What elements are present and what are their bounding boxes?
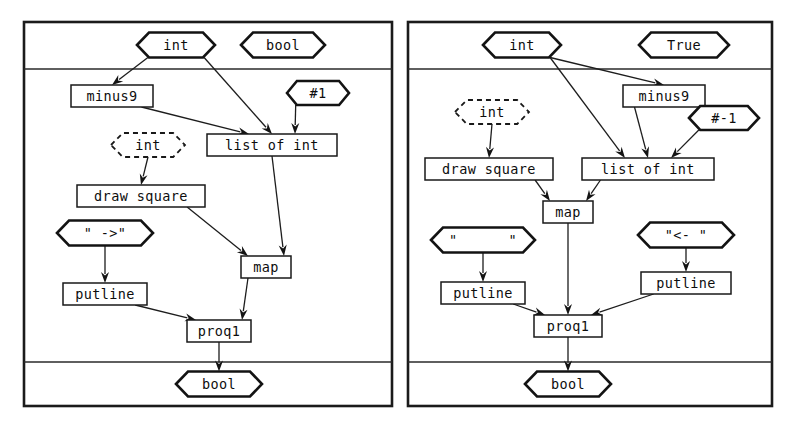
panel-border (24, 22, 392, 406)
graph-node[interactable]: "<- " (638, 223, 734, 248)
graph-node-label: True (667, 37, 701, 53)
graph-node-label: int (509, 37, 535, 53)
graph-node[interactable]: draw square (77, 185, 205, 207)
left-dataflow-panel: intboolminus9#1intlist of intdraw square… (24, 22, 392, 406)
graph-node[interactable]: list of int (207, 134, 337, 156)
graph-node[interactable]: map (241, 256, 291, 278)
graph-node-label: int (163, 37, 189, 53)
graph-node-label: bool (202, 376, 236, 392)
graph-node[interactable]: putline (641, 272, 731, 294)
graph-node[interactable]: map (543, 201, 593, 223)
graph-node-label: list of int (601, 161, 695, 177)
graph-node-label: int (479, 104, 505, 120)
graph-node[interactable]: draw square (425, 158, 553, 180)
graph-node-label: proq1 (547, 318, 590, 334)
graph-node-label: bool (266, 37, 300, 53)
graph-node[interactable]: int (455, 100, 529, 124)
graph-node-label: putline (75, 286, 135, 302)
graph-node-label: proq1 (198, 323, 241, 339)
graph-node[interactable]: #1 (287, 81, 349, 105)
graph-node[interactable]: " ->" (57, 221, 153, 246)
graph-node[interactable]: int (483, 33, 561, 58)
graph-node[interactable]: bool (176, 372, 262, 397)
graph-node[interactable]: bool (241, 33, 325, 58)
graph-node-label: map (253, 259, 279, 275)
graph-node[interactable]: " " (431, 228, 535, 253)
graph-node-label: #-1 (711, 110, 737, 126)
graph-node-label: " ->" (84, 225, 127, 241)
graph-node[interactable]: bool (525, 372, 611, 397)
graph-node[interactable]: proq1 (187, 320, 251, 342)
graph-node[interactable]: int (137, 33, 215, 58)
graph-node-label: list of int (225, 137, 319, 153)
graph-node-label: minus9 (638, 88, 689, 104)
dataflow-graph-figure: intboolminus9#1intlist of intdraw square… (0, 0, 795, 431)
graph-node-label: map (555, 204, 581, 220)
graph-node[interactable]: minus9 (623, 85, 705, 107)
figure-stage: intboolminus9#1intlist of intdraw square… (0, 0, 795, 431)
graph-node[interactable]: int (111, 133, 185, 157)
graph-node-label: bool (551, 376, 585, 392)
right-dataflow-panel: intTrueminus9int#-1draw squarelist of in… (408, 22, 772, 406)
graph-node[interactable]: minus9 (71, 85, 153, 107)
graph-node[interactable]: True (639, 33, 729, 58)
graph-node-label: minus9 (86, 88, 137, 104)
graph-node-label: int (135, 137, 161, 153)
graph-node-label: "<- " (665, 227, 708, 243)
graph-edge (295, 105, 296, 125)
graph-node[interactable]: proq1 (534, 315, 602, 337)
graph-node-label: " " (449, 232, 517, 248)
graph-node-label: putline (453, 285, 513, 301)
graph-node-label: putline (656, 275, 716, 291)
graph-node-label: #1 (309, 85, 326, 101)
graph-node[interactable]: putline (441, 282, 525, 304)
graph-node[interactable]: #-1 (689, 106, 759, 130)
graph-node[interactable]: putline (63, 283, 147, 305)
graph-node[interactable]: list of int (582, 158, 714, 180)
graph-node-label: draw square (442, 161, 536, 177)
graph-node-label: draw square (94, 188, 188, 204)
